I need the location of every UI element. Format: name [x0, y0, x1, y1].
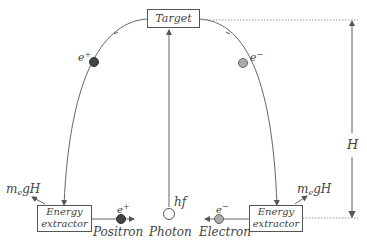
right-energy-extractor: Energy extractor [249, 205, 303, 232]
positron-particle [117, 215, 126, 224]
left-energy-extractor: Energy extractor [37, 205, 92, 232]
positron-trajectory [64, 19, 147, 205]
right-energy-output-label: megH [297, 183, 331, 197]
photon-energy-label: hf [174, 196, 186, 208]
height-label: H [347, 138, 358, 151]
positron-output-symbol: e+ [117, 203, 130, 215]
electron-particle [215, 215, 224, 224]
left-extractor-line2: extractor [38, 218, 91, 230]
target-box: Target [147, 9, 200, 28]
left-energy-output-label: megH [6, 183, 40, 197]
electron-trajectory [200, 19, 277, 205]
left-extractor-line1: Energy [38, 206, 91, 218]
photon-label: Photon [149, 226, 192, 238]
right-extractor-line2: extractor [250, 218, 302, 230]
electron-output-symbol: e− [216, 203, 229, 215]
electron-on-arc [239, 59, 248, 68]
positron-label: Positron [93, 226, 143, 238]
positron-arc-symbol: e+ [78, 51, 91, 63]
photon-particle [164, 209, 175, 220]
electron-label: Electron [199, 226, 251, 238]
target-label: Target [155, 12, 191, 25]
electron-arc-symbol: e− [250, 51, 263, 63]
right-extractor-line1: Energy [250, 206, 302, 218]
